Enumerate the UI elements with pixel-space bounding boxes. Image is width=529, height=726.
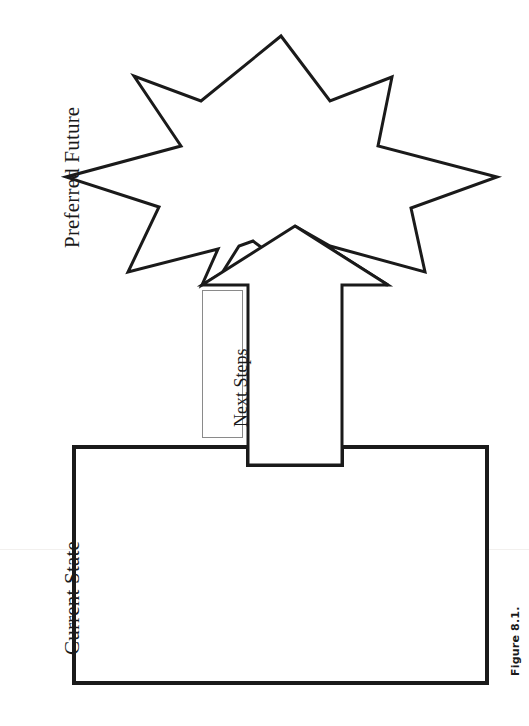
figure-caption: Figure 8.1.	[509, 606, 522, 676]
current-state-rectangle	[74, 447, 487, 683]
label-next-steps: Next Steps	[232, 349, 250, 428]
label-current-state: Current State	[62, 541, 83, 655]
figure-page: Preferred Future Current State Next Step…	[0, 0, 529, 726]
next-steps-label-box: Next Steps	[202, 290, 243, 438]
label-preferred-future: Preferred Future	[62, 107, 83, 248]
